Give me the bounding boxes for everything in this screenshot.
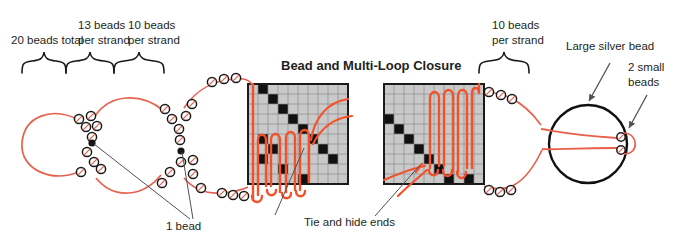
label-13-beads-line2: per strand — [78, 34, 130, 46]
label-tie-and-hide-ends: Tie and hide ends — [304, 216, 395, 228]
figure-title: Bead and Multi-Loop Closure — [281, 58, 462, 73]
label-2-small-beads-line1: 2 small — [628, 61, 664, 73]
right-loom-grid — [384, 84, 484, 184]
label-1-bead: 1 bead — [166, 220, 201, 232]
one-bead-highlight-left — [88, 139, 95, 146]
label-10-beads-left-line1: 10 beads — [128, 19, 176, 31]
diagram-canvas: 20 beads total 13 beads per strand 10 be… — [0, 0, 679, 244]
label-10-beads-left-line2: per strand — [128, 34, 180, 46]
label-20-beads-total: 20 beads total — [11, 34, 83, 46]
label-13-beads-line1: 13 beads — [78, 19, 126, 31]
bead-closure-diagram: 20 beads total 13 beads per strand 10 be… — [0, 0, 679, 244]
one-bead-highlight-middle — [177, 147, 184, 154]
label-large-silver-bead: Large silver bead — [566, 40, 654, 52]
label-10-beads-right-line2: per strand — [492, 34, 544, 46]
label-2-small-beads-line2: beads — [628, 76, 660, 88]
bead-row-right-bottom — [484, 185, 515, 196]
label-10-beads-right-line1: 10 beads — [492, 19, 540, 31]
